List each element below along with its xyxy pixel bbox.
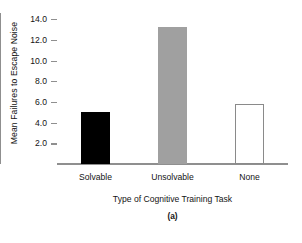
bar-solvable — [81, 112, 110, 164]
y-axis-tick-label: 14.0 — [0, 14, 47, 24]
y-axis-tick-label: 4.0 — [0, 117, 47, 127]
y-axis-tick-label: 12.0 — [0, 34, 47, 44]
y-axis-tick-label: 10.0 — [0, 55, 47, 65]
bar-none — [235, 104, 264, 164]
y-axis-tick-label: 8.0 — [0, 76, 47, 86]
x-axis-title: Type of Cognitive Training Task — [57, 194, 288, 204]
y-axis-tick-label: 6.0 — [0, 96, 47, 106]
y-axis-tick-label: 2.0 — [0, 138, 47, 148]
plot-area — [57, 13, 288, 164]
x-axis-label-solvable: Solvable — [57, 172, 134, 182]
bar-chart-figure: Mean Failures to Escape Noise 2.04.06.08… — [0, 0, 302, 243]
x-axis-label-none: None — [211, 172, 288, 182]
panel-caption: (a) — [57, 211, 288, 221]
x-axis-label-unsolvable: Unsolvable — [134, 172, 211, 182]
bar-unsolvable — [158, 27, 187, 164]
